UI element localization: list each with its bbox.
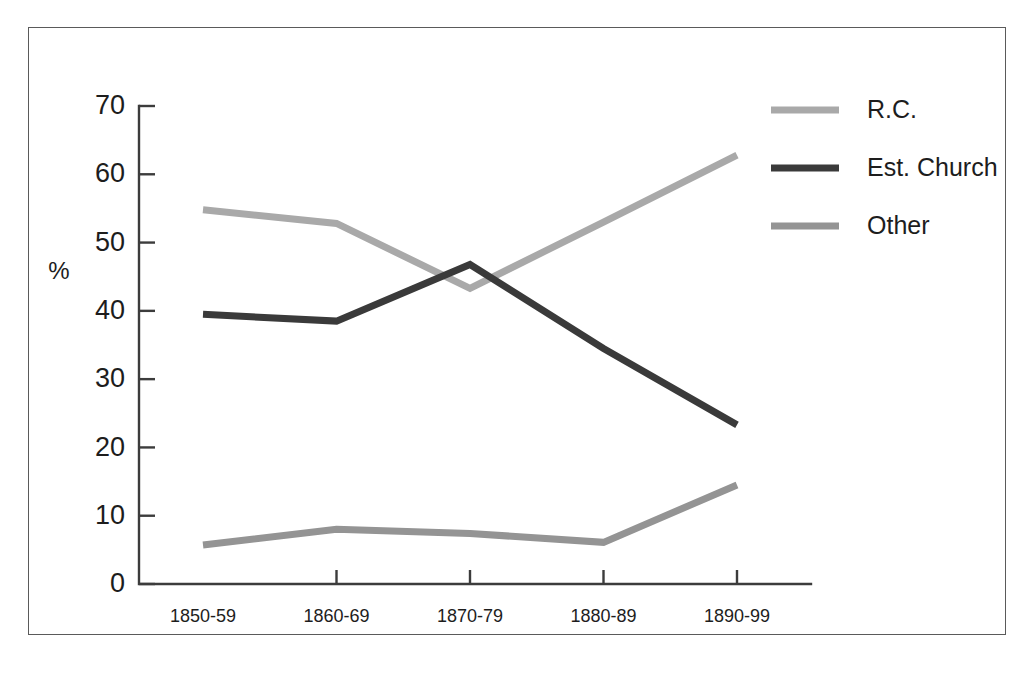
data-series-group	[203, 155, 737, 545]
x-tick-label: 1870-79	[437, 606, 503, 626]
y-tick-label: 40	[95, 295, 125, 325]
x-axis-tick-marks	[337, 570, 738, 584]
x-tick-label: 1880-89	[570, 606, 636, 626]
chart-figure-frame: 010203040506070 1850-591860-691870-79188…	[28, 27, 1006, 635]
axis-lines	[139, 106, 811, 584]
legend-label-r-c: R.C.	[867, 95, 917, 123]
line-chart: 010203040506070 1850-591860-691870-79188…	[29, 28, 1007, 636]
x-axis-tick-labels: 1850-591860-691870-791880-891890-99	[170, 606, 770, 626]
y-axis-title: %	[48, 257, 69, 284]
legend-label-est-church: Est. Church	[867, 153, 998, 181]
y-tick-label: 10	[95, 500, 125, 530]
y-tick-label: 70	[95, 90, 125, 120]
y-tick-label: 50	[95, 227, 125, 257]
y-tick-label: 60	[95, 158, 125, 188]
y-tick-label: 30	[95, 363, 125, 393]
y-tick-label: 0	[110, 568, 125, 598]
legend-label-other: Other	[867, 211, 930, 239]
x-tick-label: 1890-99	[704, 606, 770, 626]
y-axis-tick-marks	[139, 106, 155, 584]
series-line-other	[203, 485, 737, 545]
x-tick-label: 1850-59	[170, 606, 236, 626]
chart-legend: R.C.Est. ChurchOther	[771, 95, 998, 239]
y-axis-tick-labels: 010203040506070	[95, 90, 125, 598]
x-tick-label: 1860-69	[303, 606, 369, 626]
y-tick-label: 20	[95, 432, 125, 462]
